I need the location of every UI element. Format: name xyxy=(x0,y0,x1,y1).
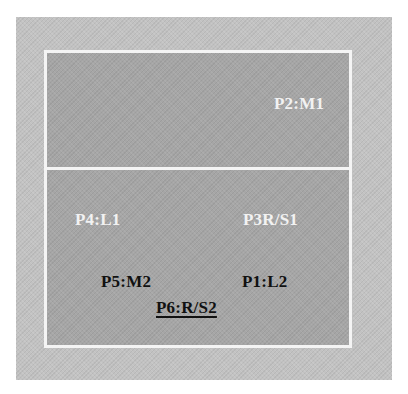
center-line xyxy=(47,167,349,170)
label-p3-r-s1: P3R/S1 xyxy=(243,211,298,228)
label-p1-l2: P1:L2 xyxy=(242,273,287,290)
label-p5-m2: P5:M2 xyxy=(101,273,151,290)
label-p6-r-s2: P6:R/S2 xyxy=(156,299,217,316)
label-p4-l1: P4:L1 xyxy=(75,211,120,228)
label-p2-m1: P2:M1 xyxy=(274,95,324,112)
